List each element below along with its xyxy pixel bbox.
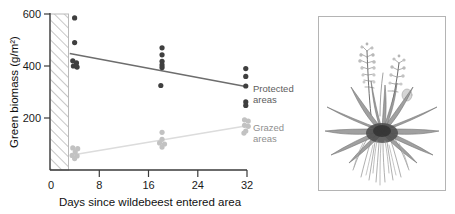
data-series-layer bbox=[70, 15, 251, 161]
data-point bbox=[159, 45, 164, 50]
legend-protected-line2: areas bbox=[253, 94, 277, 105]
figure-container: 600 400 200 0 8 16 24 32 Days since wild… bbox=[0, 0, 455, 214]
data-point bbox=[159, 52, 164, 57]
data-point bbox=[158, 83, 163, 88]
trend-line bbox=[72, 126, 247, 155]
data-point bbox=[243, 83, 248, 88]
data-point bbox=[72, 156, 77, 161]
trend-line bbox=[70, 54, 247, 87]
series-grazed-areas bbox=[70, 117, 251, 161]
y-tick-label-0: 0 bbox=[48, 179, 54, 191]
data-point bbox=[246, 119, 251, 124]
hatched-band bbox=[50, 14, 69, 170]
chart-panel: 600 400 200 0 8 16 24 32 Days since wild… bbox=[0, 0, 305, 214]
data-point bbox=[74, 64, 79, 69]
x-tick-label-32: 32 bbox=[241, 179, 253, 191]
data-point bbox=[241, 130, 246, 135]
legend-grazed-line2: areas bbox=[253, 133, 277, 144]
x-tick-label-16: 16 bbox=[142, 179, 154, 191]
x-axis-title: Days since wildebeest entered area bbox=[59, 196, 242, 208]
y-tick-label-200: 200 bbox=[23, 112, 41, 124]
grass-plant-illustration bbox=[319, 17, 445, 190]
data-point bbox=[72, 40, 77, 45]
y-axis-title: Green biomass (g/m²) bbox=[8, 36, 20, 148]
series-protected-areas bbox=[70, 15, 249, 108]
plant-illustration-panel bbox=[318, 16, 446, 191]
legend-grazed-line1: Grazed bbox=[253, 122, 284, 133]
data-point bbox=[243, 103, 248, 108]
scatter-plot: 600 400 200 0 8 16 24 32 Days since wild… bbox=[0, 0, 305, 214]
data-point bbox=[243, 74, 248, 79]
data-point bbox=[159, 130, 164, 135]
data-point bbox=[159, 65, 164, 70]
x-tick-label-24: 24 bbox=[192, 179, 204, 191]
x-tick-label-8: 8 bbox=[96, 179, 102, 191]
data-point bbox=[246, 124, 251, 129]
legend-protected-line1: Protected bbox=[253, 83, 294, 94]
y-tick-label-600: 600 bbox=[23, 8, 41, 20]
data-point bbox=[243, 66, 248, 71]
data-point bbox=[72, 15, 77, 20]
y-tick-label-400: 400 bbox=[23, 60, 41, 72]
data-point bbox=[159, 145, 164, 150]
